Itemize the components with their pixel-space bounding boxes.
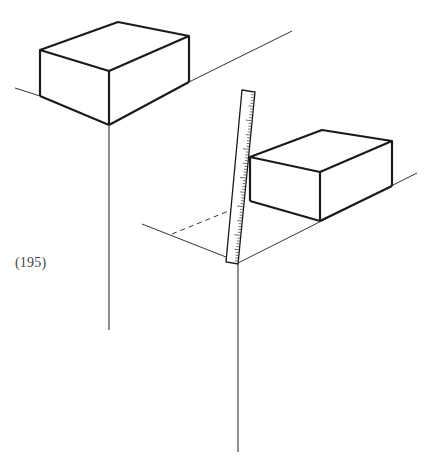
ground-line-upper-right	[189, 31, 292, 82]
lower-figure	[142, 90, 417, 452]
figure-number-label: (195)	[15, 255, 46, 271]
perspective-figure	[0, 0, 435, 470]
box-lower-right	[250, 130, 392, 221]
dashed-construction-line	[172, 210, 231, 234]
ground-line-upper-left	[15, 88, 40, 96]
box-upper-left	[40, 22, 189, 125]
